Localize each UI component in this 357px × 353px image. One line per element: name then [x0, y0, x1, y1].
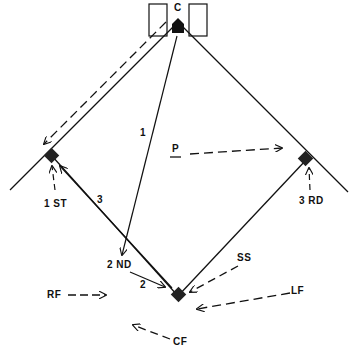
first-baseman-arrow — [52, 166, 55, 190]
label-catcher: C — [174, 2, 182, 13]
foul-line-first — [10, 22, 178, 190]
center-fielder-arrow — [133, 325, 170, 339]
label-pitcher: P — [172, 143, 179, 154]
left-fielder-arrow — [197, 293, 290, 309]
label-throw-3: 3 — [97, 194, 103, 205]
foul-line-third — [178, 22, 348, 192]
third-base-icon — [298, 151, 314, 167]
batters-box-right — [189, 4, 207, 36]
home-plate-icon — [172, 18, 184, 33]
third-baseman-arrow — [309, 168, 310, 190]
basepath-second-to-third — [178, 160, 306, 296]
label-throw-1: 1 — [140, 127, 146, 138]
label-right-field: RF — [47, 289, 61, 300]
label-second-base: 2 ND — [107, 259, 132, 270]
label-third-base: 3 RD — [299, 195, 324, 206]
label-throw-2: 2 — [140, 279, 146, 290]
pitcher-arrow — [190, 148, 282, 154]
label-left-field: LF — [291, 285, 304, 296]
batters-box-left — [149, 4, 167, 36]
label-first-base: 1 ST — [44, 198, 67, 209]
shortstop-arrow — [190, 266, 238, 292]
label-center-field: CF — [173, 336, 187, 347]
baseball-play-diagram: C 1 ST 3 RD 2 ND P SS LF CF RF 1 2 3 — [0, 0, 357, 353]
catcher-backup-arrow — [44, 22, 166, 144]
label-shortstop: SS — [237, 252, 251, 263]
